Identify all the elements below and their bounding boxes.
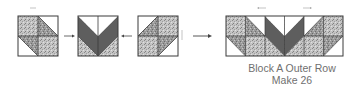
arrow-left-icon xyxy=(121,35,132,38)
left-hst-unit xyxy=(18,8,58,56)
caption-quantity: Make 26 xyxy=(232,74,352,86)
caption-title: Block A Outer Row xyxy=(232,62,352,74)
press-arrow-icon xyxy=(257,7,312,9)
block-a-outer-row xyxy=(226,7,343,56)
arrow-right-icon xyxy=(64,35,75,38)
right-hst-unit xyxy=(138,16,182,56)
center-v-unit xyxy=(78,16,118,56)
arrow-right-icon xyxy=(193,34,212,38)
